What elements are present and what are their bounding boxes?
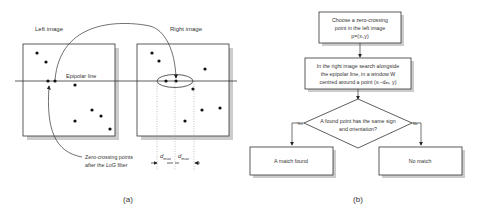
flow-arrow-no <box>412 123 421 145</box>
caption-b: (b) <box>353 195 363 204</box>
zero-crossing-label-line2: after the LoG filter <box>85 162 128 168</box>
box1-line3: p=(xₗ,y) <box>351 33 369 39</box>
caption-a: (a) <box>123 195 133 204</box>
figure-canvas: Left image Right image Epipolar line Zer… <box>0 0 480 214</box>
match-found-label: A match found <box>274 158 308 164</box>
yes-label: Yes <box>297 122 303 126</box>
box2-line1: In the right image search alongside <box>317 63 399 69</box>
panel-a <box>15 23 237 170</box>
left-image-title: Left image <box>35 26 64 32</box>
decision-line2: and orientation? <box>339 126 377 132</box>
box2-line3: centred around a point (xₗ−dₐᵥ, y) <box>320 79 397 85</box>
box2-line2: the epipolar line, in a window W <box>321 71 396 77</box>
left-image-frame <box>23 44 115 136</box>
no-label: No <box>413 122 418 126</box>
right-image-frame <box>137 44 229 136</box>
decision-line1: A found point has the same sign <box>320 118 395 124</box>
epipolar-line-label: Epipolar line <box>66 73 96 79</box>
right-image-title: Right image <box>170 26 203 32</box>
no-match-label: No match <box>409 158 432 164</box>
zero-crossing-label-line1: Zero-crossing points <box>85 154 133 160</box>
dmax-label-left: dmax <box>160 153 172 161</box>
box1-line2: point in the left image <box>335 25 385 31</box>
box1-line1: Choose a zero-crossing <box>332 17 388 23</box>
dmax-label-right: dmax <box>178 153 190 161</box>
flow-arrow-yes <box>292 123 304 145</box>
